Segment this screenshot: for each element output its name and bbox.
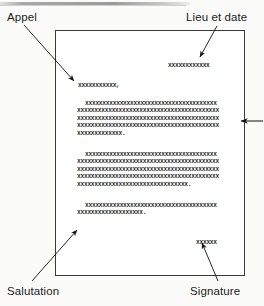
- callout-label-salutation: Salutation: [7, 285, 59, 297]
- diagram-canvas: Appel Lieu et date Salutation Signature …: [0, 0, 264, 306]
- letter-signature-line: xxxxxx: [196, 239, 217, 247]
- letter-body: xxxxxxxxxxxx xxxxxxxxxxx, xxxxxxxxxxxxxx…: [56, 31, 244, 275]
- top-rule-decoration-secondary: [0, 5, 186, 6]
- letter-salutation-line: xxxxxxxxxxx,: [78, 82, 120, 90]
- letter-paragraph-1: xxxxxxxxxxxxxxxxxxxxxxxxxxxxxxxxxxxxxx x…: [77, 100, 219, 137]
- callout-label-appel: Appel: [7, 11, 37, 23]
- letter-date-line: xxxxxxxxxxxx: [168, 62, 210, 70]
- paragraph-line: xxxxxxxxxxxxxxxxxxx.: [77, 209, 217, 217]
- letter-paragraph-2: xxxxxxxxxxxxxxxxxxxxxxxxxxxxxxxxxxxxxx x…: [77, 151, 219, 188]
- letter-paragraph-3: xxxxxxxxxxxxxxxxxxxxxxxxxxxxxxxxxxxxxx x…: [77, 202, 217, 217]
- callout-label-lieu-et-date: Lieu et date: [186, 11, 247, 23]
- paragraph-line: xxxxxxxxxxxxx.: [77, 130, 219, 138]
- letter-page: xxxxxxxxxxxx xxxxxxxxxxx, xxxxxxxxxxxxxx…: [55, 30, 245, 276]
- paragraph-line: xxxxxxxxxxxxxxxxxxxxxxxxxxxxxxxx.: [77, 181, 219, 189]
- callout-label-signature: Signature: [190, 285, 240, 297]
